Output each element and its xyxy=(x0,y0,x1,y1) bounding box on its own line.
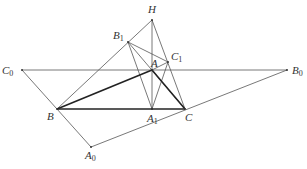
point-b1 xyxy=(127,41,129,43)
segment-b-h xyxy=(57,20,152,109)
segment-a-c xyxy=(152,70,185,109)
point-label-b: B xyxy=(47,110,54,122)
point-label-c0: C0 xyxy=(2,64,13,78)
point-b xyxy=(56,108,58,110)
segment-b-a xyxy=(57,70,152,109)
point-label-subscript: 0 xyxy=(299,69,303,78)
point-label-c: C xyxy=(185,111,193,123)
point-label-a0: A0 xyxy=(84,149,96,163)
point-label-subscript: 1 xyxy=(178,55,182,64)
point-c1 xyxy=(167,61,169,63)
point-c xyxy=(184,108,186,110)
point-label-letter: H xyxy=(147,3,157,15)
point-label-letter: B xyxy=(47,110,54,122)
point-label-h: H xyxy=(147,3,157,15)
point-label-letter: A xyxy=(150,57,158,69)
point-label-b1: B1 xyxy=(113,29,124,43)
point-label-subscript: 0 xyxy=(9,69,13,78)
point-h xyxy=(151,19,153,21)
point-label-subscript: 1 xyxy=(120,34,124,43)
geometry-diagram: HB1C1AC0B0BA1CA0 xyxy=(0,0,307,169)
segments-layer xyxy=(22,20,287,147)
point-c0 xyxy=(21,69,23,71)
point-label-subscript: 1 xyxy=(154,117,158,126)
point-a xyxy=(151,69,153,71)
point-label-letter: C xyxy=(185,111,193,123)
point-b0 xyxy=(286,69,288,71)
point-label-a1: A1 xyxy=(146,112,158,126)
point-label-b0: B0 xyxy=(292,64,303,78)
point-a1 xyxy=(151,108,153,110)
point-label-c1: C1 xyxy=(171,50,182,64)
point-label-a: A xyxy=(150,57,158,69)
point-label-subscript: 0 xyxy=(92,154,96,163)
point-a0 xyxy=(90,146,92,148)
